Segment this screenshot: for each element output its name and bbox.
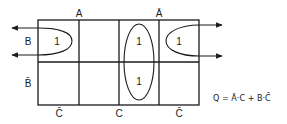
- cell-r0-c3: 1: [176, 36, 182, 47]
- cell-r1-c2: 1: [136, 76, 142, 87]
- cell-r0-c2: 1: [136, 36, 142, 47]
- equation: Q = Ā·C + B·C̄: [213, 92, 271, 103]
- group-loop-left: [12, 28, 72, 55]
- col-label-not-a: Ā: [156, 8, 163, 19]
- row-label-b: B: [25, 36, 32, 47]
- col-label-not-c-left: C̄: [55, 107, 62, 119]
- row-label-not-b: B̄: [25, 77, 32, 89]
- karnaugh-map: A Ā C̄ C C̄ B B̄ 1 1 1 1 Q = Ā·C + B·C̄: [0, 0, 287, 124]
- col-label-not-c-right: C̄: [175, 107, 182, 119]
- col-label-a: A: [76, 8, 83, 19]
- map-grid: [38, 20, 199, 105]
- cell-r0-c0: 1: [54, 36, 60, 47]
- group-loop-right: [166, 25, 222, 56]
- col-label-c: C: [115, 108, 122, 119]
